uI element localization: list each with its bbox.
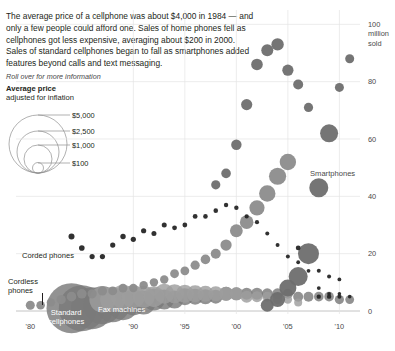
y-tick-label-0: 0 xyxy=(368,307,372,316)
data-point[interactable] xyxy=(282,65,293,76)
data-point[interactable] xyxy=(150,278,158,286)
data-point[interactable] xyxy=(296,246,301,251)
annotation-cordless-phones: Cordless phones xyxy=(8,277,38,295)
data-point[interactable] xyxy=(182,223,187,228)
data-point[interactable] xyxy=(317,269,321,273)
data-point[interactable] xyxy=(307,269,311,273)
data-point[interactable] xyxy=(245,214,249,218)
data-point[interactable] xyxy=(220,239,231,250)
x-tick-label-1990: '90 xyxy=(129,322,139,331)
data-point[interactable] xyxy=(191,261,200,270)
data-point[interactable] xyxy=(241,291,253,303)
data-point[interactable] xyxy=(289,267,308,286)
data-point[interactable] xyxy=(251,59,263,71)
annotation-standard-cellphones: Standard cellphones xyxy=(48,308,84,326)
data-point[interactable] xyxy=(293,80,303,90)
data-point[interactable] xyxy=(255,220,259,224)
data-point[interactable] xyxy=(120,234,125,239)
data-point[interactable] xyxy=(172,225,177,230)
data-point[interactable] xyxy=(304,103,313,112)
data-point[interactable] xyxy=(151,231,156,236)
data-point[interactable] xyxy=(79,245,85,251)
data-point[interactable] xyxy=(345,54,354,63)
data-point[interactable] xyxy=(139,281,147,289)
annotation-cordless-line2: phones xyxy=(8,286,38,295)
infographic-root: The average price of a cellphone was abo… xyxy=(0,0,395,351)
data-point[interactable] xyxy=(303,292,313,302)
data-point[interactable] xyxy=(77,289,87,299)
data-point[interactable] xyxy=(259,185,275,201)
data-point[interactable] xyxy=(251,291,262,302)
data-point[interactable] xyxy=(90,254,95,259)
data-point[interactable] xyxy=(162,223,167,228)
data-point[interactable] xyxy=(180,266,189,275)
data-point[interactable] xyxy=(276,243,280,247)
x-tick-label-2000: '00 xyxy=(232,322,242,331)
data-point[interactable] xyxy=(203,214,208,219)
y-tick-label-60: 60 xyxy=(368,135,376,144)
data-point[interactable] xyxy=(193,214,198,219)
data-point[interactable] xyxy=(36,301,45,310)
data-point[interactable] xyxy=(280,154,296,170)
annotation-fax-machines: Fax machines xyxy=(98,305,145,314)
data-point[interactable] xyxy=(348,295,352,299)
data-point[interactable] xyxy=(317,294,321,298)
data-point[interactable] xyxy=(88,289,97,298)
data-point[interactable] xyxy=(327,275,331,279)
data-point[interactable] xyxy=(119,284,128,293)
data-point[interactable] xyxy=(320,124,338,142)
data-point[interactable] xyxy=(337,278,341,282)
data-point[interactable] xyxy=(261,44,273,56)
data-point[interactable] xyxy=(108,287,117,296)
data-point[interactable] xyxy=(241,99,252,110)
x-tick-label-1980: '80 xyxy=(25,322,35,331)
data-point[interactable] xyxy=(26,301,35,310)
data-point[interactable] xyxy=(265,232,269,236)
data-point[interactable] xyxy=(141,228,146,233)
y-tick-label-20: 20 xyxy=(368,249,376,258)
data-point[interactable] xyxy=(309,178,328,197)
cordless-leader-line xyxy=(42,293,43,305)
data-point[interactable] xyxy=(269,168,286,185)
x-tick-label-1995: '95 xyxy=(180,322,190,331)
data-point[interactable] xyxy=(286,255,290,259)
data-point[interactable] xyxy=(211,249,221,259)
y-axis-unit-line-3: sold xyxy=(368,39,382,48)
data-point[interactable] xyxy=(221,169,231,179)
data-point[interactable] xyxy=(131,237,136,242)
data-point[interactable] xyxy=(110,242,115,247)
data-point[interactable] xyxy=(317,286,321,290)
data-point[interactable] xyxy=(249,200,264,215)
data-point[interactable] xyxy=(69,233,75,239)
data-point[interactable] xyxy=(201,255,211,265)
data-point[interactable] xyxy=(337,295,341,299)
data-point[interactable] xyxy=(213,208,218,213)
data-point[interactable] xyxy=(160,275,168,283)
annotation-standard-line1: Standard xyxy=(48,308,84,317)
y-axis-unit-line-2: million xyxy=(368,29,389,38)
data-point[interactable] xyxy=(327,294,331,298)
data-point[interactable] xyxy=(211,180,220,189)
data-point[interactable] xyxy=(129,284,137,292)
data-point[interactable] xyxy=(294,298,302,306)
data-point[interactable] xyxy=(67,292,77,302)
data-point[interactable] xyxy=(224,203,228,207)
annotation-standard-line2: cellphones xyxy=(48,317,84,326)
data-point[interactable] xyxy=(231,140,241,150)
y-axis-unit-line-1: 100 xyxy=(368,20,380,29)
data-point[interactable] xyxy=(230,224,243,237)
data-point[interactable] xyxy=(98,286,107,295)
y-tick-label-80: 80 xyxy=(368,77,376,86)
data-point[interactable] xyxy=(271,38,283,50)
data-point[interactable] xyxy=(335,83,344,92)
data-point[interactable] xyxy=(57,295,66,304)
data-point[interactable] xyxy=(170,269,179,278)
data-point[interactable] xyxy=(234,206,238,210)
annotation-cordless-line1: Cordless xyxy=(8,277,38,286)
data-point[interactable] xyxy=(47,298,55,306)
data-point[interactable] xyxy=(298,243,319,264)
annotation-smartphones: Smartphones xyxy=(310,169,355,178)
data-point[interactable] xyxy=(296,260,300,264)
y-tick-label-40: 40 xyxy=(368,192,376,201)
data-point[interactable] xyxy=(100,254,105,259)
